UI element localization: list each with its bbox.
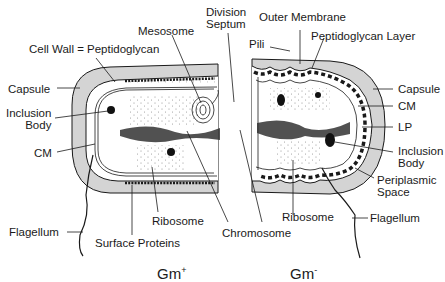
label-division-septum: Division Septum <box>206 6 246 30</box>
label-capsule-left: Capsule <box>8 83 50 95</box>
inclusion-body-left <box>107 106 115 114</box>
label-periplasmic-space: Periplasmic Space <box>377 174 436 198</box>
label-mesosome: Mesosome <box>138 25 194 37</box>
title-gram-positive: Gm+ <box>157 262 186 282</box>
division-septum-pointer <box>228 33 234 102</box>
label-lp: LP <box>398 121 412 133</box>
label-flagellum-left: Flagellum <box>9 226 59 238</box>
label-cm-left: CM <box>34 147 52 159</box>
gram-positive-cell <box>72 64 220 256</box>
label-ribosome-left: Ribosome <box>152 215 204 227</box>
label-cell-wall: Cell Wall = Peptidoglycan <box>29 43 159 55</box>
label-cm-right: CM <box>398 100 416 112</box>
label-pili: Pili <box>249 38 264 50</box>
label-chromosome: Chromosome <box>222 227 291 239</box>
label-ribosome-right: Ribosome <box>282 211 334 223</box>
label-capsule-right: Capsule <box>398 83 440 95</box>
inclusion-body-right <box>277 94 285 106</box>
label-flagellum-right: Flagellum <box>370 212 420 224</box>
label-peptidoglycan-layer: Peptidoglycan Layer <box>311 30 415 42</box>
title-gram-negative: Gm- <box>290 262 317 282</box>
label-surface-proteins: Surface Proteins <box>95 237 180 249</box>
label-outer-membrane: Outer Membrane <box>259 11 346 23</box>
label-inclusion-body-left: Inclusion Body <box>6 107 51 131</box>
label-inclusion-body-right: Inclusion Body <box>398 145 443 169</box>
